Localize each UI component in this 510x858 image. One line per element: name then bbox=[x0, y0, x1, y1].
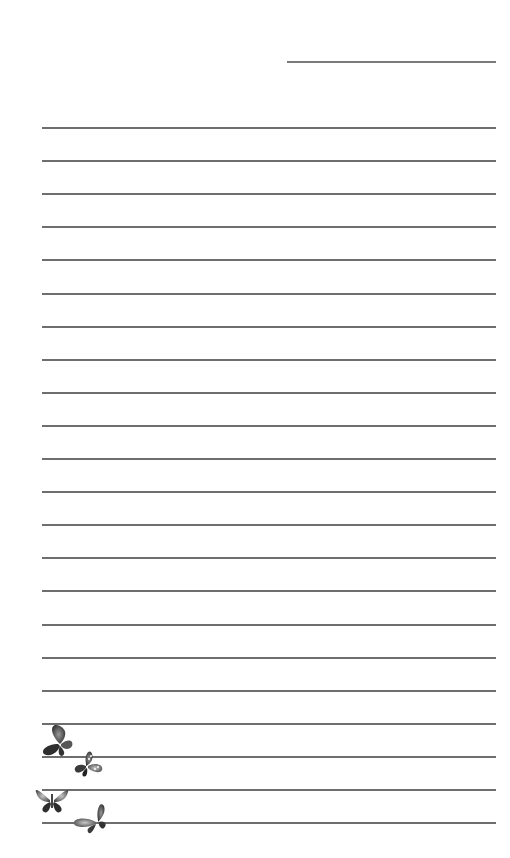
ruled-line bbox=[42, 557, 496, 559]
ruled-line bbox=[42, 690, 496, 692]
ruled-line bbox=[42, 590, 496, 592]
ruled-line bbox=[42, 524, 496, 526]
ruled-line bbox=[42, 359, 496, 361]
butterfly-1-icon bbox=[43, 725, 72, 756]
butterfly-4-icon bbox=[74, 804, 106, 833]
ruled-line bbox=[42, 259, 496, 261]
date-line bbox=[287, 61, 496, 63]
butterflies-icon bbox=[34, 718, 118, 842]
ruled-line bbox=[42, 193, 496, 195]
ruled-line bbox=[42, 491, 496, 493]
ruled-line bbox=[42, 624, 496, 626]
butterfly-2-icon bbox=[75, 752, 103, 777]
ruled-line bbox=[42, 226, 496, 228]
ruled-line bbox=[42, 326, 496, 328]
butterfly-3-icon bbox=[36, 790, 69, 813]
ruled-line bbox=[42, 458, 496, 460]
ruled-line bbox=[42, 657, 496, 659]
ruled-line bbox=[42, 293, 496, 295]
ruled-line bbox=[42, 392, 496, 394]
ruled-line bbox=[42, 127, 496, 129]
ruled-line bbox=[42, 160, 496, 162]
ruled-line bbox=[42, 425, 496, 427]
